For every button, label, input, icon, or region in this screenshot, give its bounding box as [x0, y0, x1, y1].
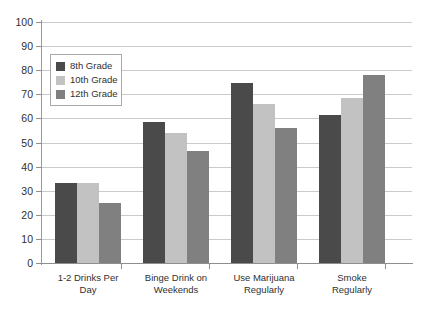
bar — [319, 115, 341, 263]
bar — [275, 128, 297, 263]
y-axis-tick-label: 90 — [21, 41, 33, 52]
bar-group — [143, 22, 209, 263]
y-axis-tick — [36, 263, 42, 264]
y-axis-tick — [36, 46, 42, 47]
x-axis-tick — [297, 263, 298, 269]
x-axis-category-label: SmokeRegularly — [302, 272, 402, 295]
bar — [231, 83, 253, 263]
y-axis-tick — [36, 70, 42, 71]
y-axis-tick — [36, 191, 42, 192]
bar — [55, 183, 77, 263]
bar — [253, 104, 275, 263]
legend-item-label: 10th Grade — [70, 75, 118, 85]
x-axis-category-label: 1-2 Drinks PerDay — [38, 272, 138, 295]
category-label-line: Day — [38, 284, 138, 296]
category-label-line: Weekends — [126, 284, 226, 296]
legend-swatch-icon — [56, 62, 65, 71]
category-label-line: Regularly — [214, 284, 314, 296]
y-axis-tick-label: 0 — [27, 258, 33, 269]
y-axis-tick — [36, 94, 42, 95]
y-axis-tick-label: 50 — [21, 137, 33, 148]
y-axis-tick-label: 70 — [21, 89, 33, 100]
y-axis-tick-label: 60 — [21, 113, 33, 124]
x-axis-category-label: Use MarijuanaRegularly — [214, 272, 314, 295]
category-label-line: Use Marijuana — [214, 272, 314, 284]
x-axis-tick — [209, 263, 210, 269]
bar — [99, 203, 121, 263]
y-axis-tick-label: 100 — [15, 17, 33, 28]
bar-group — [319, 22, 385, 263]
bar-chart: 0102030405060708090100 1-2 Drinks PerDay… — [0, 0, 425, 314]
bar-group — [231, 22, 297, 263]
legend-item-label: 12th Grade — [70, 89, 118, 99]
y-axis-tick-label: 10 — [21, 234, 33, 245]
y-axis-tick — [36, 118, 42, 119]
bar — [187, 151, 209, 263]
y-axis-tick — [36, 167, 42, 168]
category-label-line: Binge Drink on — [126, 272, 226, 284]
category-label-line: Regularly — [302, 284, 402, 296]
x-axis-category-label: Binge Drink onWeekends — [126, 272, 226, 295]
legend-item: 12th Grade — [56, 87, 116, 101]
category-label-line: Smoke — [302, 272, 402, 284]
legend: 8th Grade10th Grade12th Grade — [50, 54, 122, 106]
y-axis-tick — [36, 215, 42, 216]
bar — [143, 122, 165, 263]
category-label-line: 1-2 Drinks Per — [38, 272, 138, 284]
x-axis-tick — [385, 263, 386, 269]
x-axis-tick — [121, 263, 122, 269]
y-axis-tick-label: 20 — [21, 210, 33, 221]
gridline: 0 — [42, 263, 412, 264]
bar — [363, 75, 385, 263]
bar — [77, 183, 99, 263]
legend-item: 10th Grade — [56, 73, 116, 87]
legend-swatch-icon — [56, 90, 65, 99]
y-axis-tick — [36, 239, 42, 240]
y-axis-tick — [36, 143, 42, 144]
legend-swatch-icon — [56, 76, 65, 85]
legend-item-label: 8th Grade — [70, 61, 112, 71]
y-axis-tick — [36, 22, 42, 23]
y-axis-tick-label: 40 — [21, 161, 33, 172]
bar — [165, 133, 187, 263]
y-axis-tick-label: 30 — [21, 185, 33, 196]
bar — [341, 98, 363, 263]
legend-item: 8th Grade — [56, 59, 116, 73]
y-axis-tick-label: 80 — [21, 65, 33, 76]
